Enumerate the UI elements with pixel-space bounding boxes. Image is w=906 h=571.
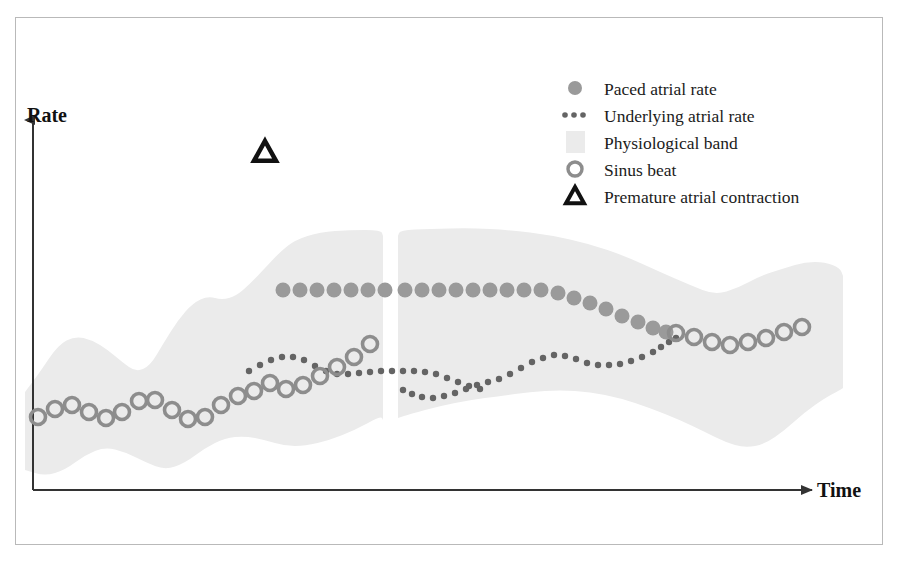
figure-root: Paced atrial rateUnderlying atrial rateP… <box>0 0 906 571</box>
underlying-rate-dot <box>463 386 469 392</box>
underlying-rate-dot <box>540 355 546 361</box>
legend-item-band-swatch[interactable]: Physiological band <box>566 131 738 153</box>
underlying-rate-dot <box>400 387 406 393</box>
legend-triangle-icon <box>566 187 584 203</box>
underlying-rate-dot <box>301 357 307 363</box>
legend-dotted-line-icon <box>571 112 577 118</box>
paced-beat-marker <box>398 283 413 298</box>
underlying-rate-dot <box>279 354 285 360</box>
underlying-rate-dot <box>573 356 579 362</box>
underlying-rate-dot <box>441 393 447 399</box>
legend-item-label: Paced atrial rate <box>604 79 717 99</box>
paced-beat-marker <box>583 296 598 311</box>
underlying-rate-dot <box>455 379 461 385</box>
underlying-rate-dot <box>551 352 557 358</box>
underlying-rate-dot <box>444 375 450 381</box>
underlying-rate-dot <box>639 354 645 360</box>
paced-beat-marker <box>378 283 393 298</box>
legend-item-filled-circle[interactable]: Paced atrial rate <box>568 79 717 99</box>
paced-beat-marker <box>500 283 515 298</box>
paced-beat-marker <box>449 283 464 298</box>
paced-beat-marker <box>344 283 359 298</box>
underlying-rate-dot <box>650 349 656 355</box>
paced-beat-marker <box>293 283 308 298</box>
legend-item-dotted-line[interactable]: Underlying atrial rate <box>562 106 755 126</box>
underlying-rate-dot <box>356 370 362 376</box>
y-axis-label: Rate <box>27 104 67 126</box>
legend-filled-circle-icon <box>568 81 582 95</box>
underlying-rate-dot <box>367 369 373 375</box>
legend-item-label: Underlying atrial rate <box>604 106 755 126</box>
underlying-rate-dot <box>617 361 623 367</box>
paced-beat-marker <box>432 283 447 298</box>
underlying-rate-dot <box>474 382 480 388</box>
legend-band-swatch-icon <box>566 131 585 153</box>
underlying-rate-dot <box>257 362 263 368</box>
underlying-rate-dot <box>378 368 384 374</box>
paced-beat-marker <box>615 309 630 324</box>
underlying-rate-dot <box>411 368 417 374</box>
underlying-rate-dot <box>389 368 395 374</box>
underlying-rate-dot <box>529 359 535 365</box>
underlying-rate-dot <box>658 344 664 350</box>
premature-atrial-contraction-marker <box>254 141 276 161</box>
band-segment-right <box>398 228 843 446</box>
x-axis-label: Time <box>817 479 861 501</box>
underlying-rate-dot <box>584 360 590 366</box>
underlying-rate-dot <box>485 379 491 385</box>
band-segment-left <box>25 230 383 475</box>
paced-beat-marker <box>517 283 532 298</box>
legend-item-label: Physiological band <box>604 133 738 153</box>
underlying-rate-dot <box>628 358 634 364</box>
paced-beat-marker <box>567 291 582 306</box>
underlying-rate-dot <box>419 394 425 400</box>
underlying-rate-dot <box>507 371 513 377</box>
underlying-rate-dot <box>409 391 415 397</box>
paced-beat-marker <box>646 321 661 336</box>
underlying-rate-dot <box>422 369 428 375</box>
paced-beat-marker <box>483 283 498 298</box>
paced-beat-marker <box>466 283 481 298</box>
legend-item-label: Sinus beat <box>604 160 677 180</box>
underlying-rate-dot <box>562 353 568 359</box>
paced-beat-marker <box>631 315 646 330</box>
legend-item-triangle-outline[interactable]: Premature atrial contraction <box>566 187 800 207</box>
legend-group: Paced atrial rateUnderlying atrial rateP… <box>562 79 799 207</box>
underlying-rate-dot <box>518 365 524 371</box>
underlying-rate-dot <box>496 376 502 382</box>
paced-beat-marker <box>534 283 549 298</box>
paced-beat-marker <box>276 283 291 298</box>
paced-beat-marker <box>361 283 376 298</box>
paced-beat-marker <box>415 283 430 298</box>
paced-beat-marker <box>310 283 325 298</box>
legend-item-label: Premature atrial contraction <box>604 187 800 207</box>
underlying-rate-dot <box>606 362 612 368</box>
underlying-rate-dot <box>400 368 406 374</box>
paced-beat-marker <box>599 302 614 317</box>
chart-canvas: Paced atrial rateUnderlying atrial rateP… <box>0 0 906 571</box>
paced-beat-marker <box>327 283 342 298</box>
underlying-rate-dot <box>246 368 252 374</box>
underlying-rate-dot <box>290 354 296 360</box>
legend-open-circle-icon <box>568 162 582 176</box>
legend-dotted-line-icon <box>562 112 568 118</box>
underlying-rate-dot <box>345 371 351 377</box>
paced-beat-marker <box>551 286 566 301</box>
underlying-rate-dot <box>433 371 439 377</box>
legend-item-open-circle[interactable]: Sinus beat <box>568 160 677 180</box>
physiological-band-group <box>25 228 843 474</box>
legend-dotted-line-icon <box>580 112 586 118</box>
underlying-rate-dot <box>268 357 274 363</box>
annotation-group <box>254 141 276 161</box>
underlying-rate-dot <box>595 362 601 368</box>
underlying-rate-dot <box>430 395 436 401</box>
underlying-rate-dot <box>452 390 458 396</box>
